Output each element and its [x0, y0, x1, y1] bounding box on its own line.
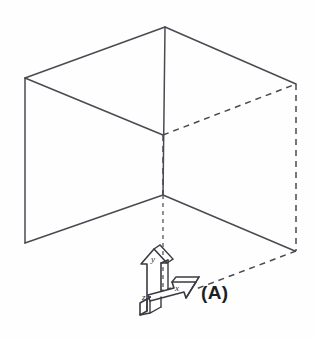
figure-container: y x z (A)	[0, 0, 316, 339]
z-axis-label: z	[141, 292, 146, 302]
edge-center-to-bottom-right	[163, 195, 295, 251]
edge-hidden-inner-to-top-right	[163, 84, 296, 135]
isometric-box-diagram: y x z	[0, 0, 316, 339]
figure-caption-label: (A)	[201, 282, 228, 304]
axis-origin-marker	[149, 296, 151, 298]
edge-top-left-to-peak	[25, 27, 165, 78]
x-axis-label: x	[174, 283, 179, 293]
edge-peak-to-top-right	[165, 27, 296, 84]
edge-bottom-left-to-center	[25, 195, 163, 243]
edge-top-left-to-inner-top	[25, 78, 163, 135]
y-axis-label: y	[150, 254, 155, 264]
